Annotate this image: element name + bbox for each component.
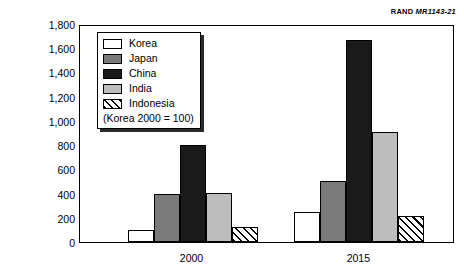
source-org: RAND [391, 7, 413, 16]
x-tick-label: 2015 [328, 252, 388, 264]
legend-item-india: India [103, 81, 194, 96]
bar-korea-2015 [294, 212, 320, 242]
y-tick-label: 1,600 [9, 44, 75, 54]
source-credit: RAND MR1143-21 [391, 7, 456, 16]
y-tick-label: 1,400 [9, 68, 75, 78]
white-swatch [103, 39, 122, 49]
y-tick-label: 1,800 [9, 20, 75, 30]
source-code: MR1143-21 [416, 7, 456, 16]
y-tick-label: 0 [9, 238, 75, 248]
bar-japan-2015 [320, 181, 346, 242]
y-tick-label: 600 [9, 165, 75, 175]
bar-japan-2000 [154, 194, 180, 242]
y-tick-label: 800 [9, 141, 75, 151]
legend-item-label: Indonesia [129, 98, 175, 109]
y-tick-label: 400 [9, 190, 75, 200]
legend-item-label: Japan [129, 53, 158, 64]
legend-item-label: India [129, 83, 152, 94]
x-tick-label: 2000 [162, 252, 222, 264]
legend-item-korea: Korea [103, 36, 194, 51]
legend-rows: KoreaJapanChinaIndiaIndonesia [103, 36, 194, 111]
y-tick-label: 200 [9, 214, 75, 224]
bar-india-2015 [372, 132, 398, 242]
y-tick-label: 1,000 [9, 117, 75, 127]
light-gray-swatch [103, 84, 122, 94]
legend-item-label: Korea [129, 38, 157, 49]
bar-india-2000 [206, 193, 232, 242]
hatched-swatch [103, 99, 122, 109]
legend-item-japan: Japan [103, 51, 194, 66]
bar-indonesia-2015 [398, 216, 424, 242]
black-swatch [103, 69, 122, 79]
bar-china-2000 [180, 145, 206, 242]
chart-figure: RAND MR1143-21 Billions of PPP 1998 U.S.… [0, 0, 464, 279]
legend-item-china: China [103, 66, 194, 81]
y-tick-label: 1,200 [9, 93, 75, 103]
dark-gray-swatch [103, 54, 122, 64]
bar-korea-2000 [128, 230, 154, 242]
bar-china-2015 [346, 40, 372, 242]
legend-item-indonesia: Indonesia [103, 96, 194, 111]
chart-legend: KoreaJapanChinaIndiaIndonesia (Korea 200… [97, 32, 201, 129]
bar-indonesia-2000 [232, 227, 258, 242]
legend-item-label: China [129, 68, 156, 79]
legend-note: (Korea 2000 = 100) [103, 111, 194, 125]
